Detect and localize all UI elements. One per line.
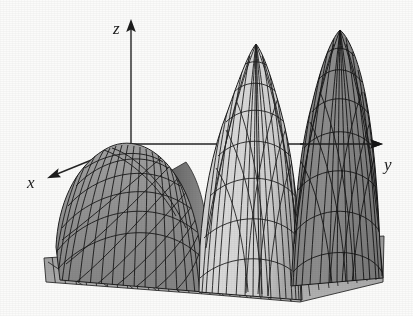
z-axis (126, 19, 136, 144)
z-axis-label: z (112, 19, 120, 38)
x-axis-label: x (26, 173, 35, 192)
surface-plot-canvas: z y x (0, 0, 413, 316)
surface-center-peak (199, 44, 302, 300)
surface-plot-figure: z y x (0, 0, 413, 316)
y-axis-label: y (382, 155, 392, 174)
surface-right-peak (291, 30, 383, 286)
